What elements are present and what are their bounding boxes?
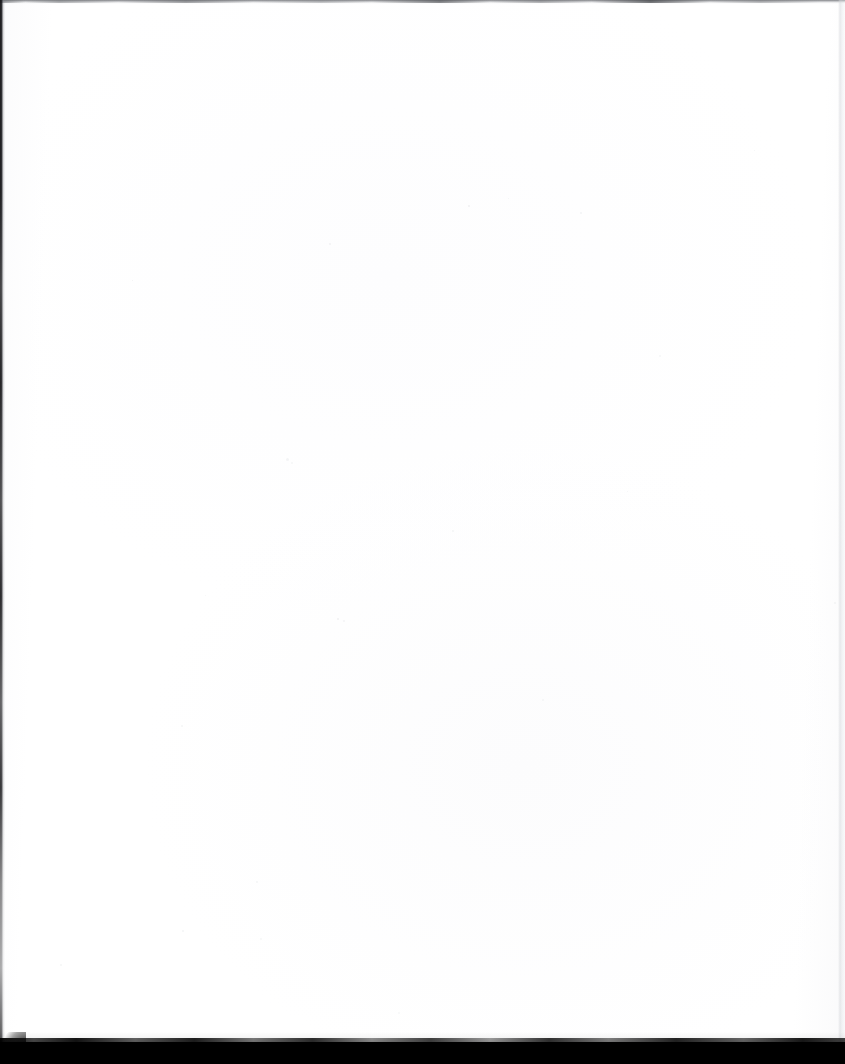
page-paper (0, 0, 845, 1064)
scanned-page (0, 0, 845, 1064)
paper-tone-overlay (0, 0, 845, 1064)
